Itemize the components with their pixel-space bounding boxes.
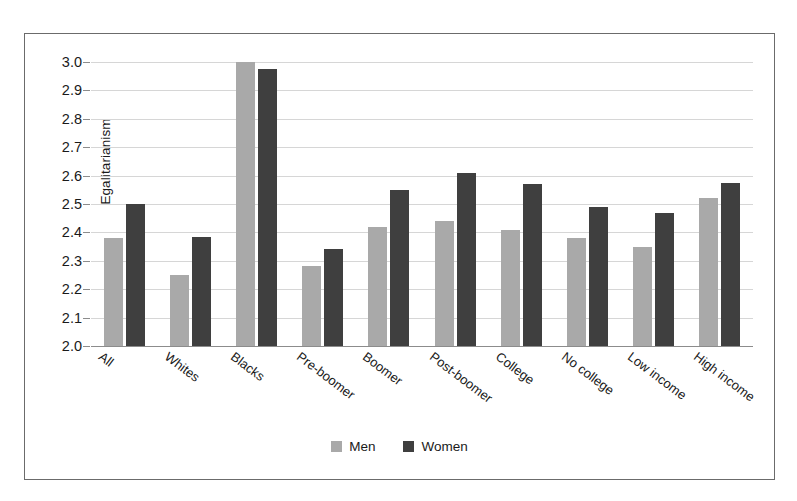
legend-label-women: Women: [421, 439, 467, 454]
bar-men-high-income: [699, 198, 718, 346]
bar-women-boomer: [390, 190, 409, 346]
y-axis-tick-label: 2.2: [62, 281, 82, 297]
y-axis-tick-label: 2.3: [62, 253, 82, 269]
y-axis-tick-mark: [83, 261, 90, 262]
y-axis-tick-mark: [83, 90, 90, 91]
bar-women-whites: [192, 237, 211, 346]
x-axis-tick-label-high-income: High income: [691, 349, 758, 404]
bar-men-pre-boomer: [302, 266, 321, 346]
y-axis-tick-label: 2.9: [62, 82, 82, 98]
legend-swatch-men: [331, 441, 342, 452]
y-axis-tick-label: 3.0: [62, 54, 82, 70]
x-axis-tick-labels: AllWhitesBlacksPre-boomerBoomerPost-boom…: [91, 349, 753, 449]
y-axis-tick-label: 2.7: [62, 139, 82, 155]
x-axis-tick-label-college: College: [493, 349, 537, 388]
chart-figure-frame: Egalitarianism 3.02.92.82.72.62.52.42.32…: [24, 33, 775, 480]
y-axis-tick-mark: [83, 204, 90, 205]
plot-area: 3.02.92.82.72.62.52.42.32.22.12.0: [91, 62, 753, 346]
legend-label-men: Men: [349, 439, 375, 454]
x-axis-tick-label-low-income: Low income: [625, 349, 689, 403]
y-axis-tick-mark: [83, 346, 90, 347]
x-axis-tick-label-blacks: Blacks: [228, 349, 268, 384]
bar-women-high-income: [721, 183, 740, 346]
chart-legend: MenWomen: [25, 439, 774, 454]
bar-women-post-boomer: [457, 173, 476, 346]
bar-men-boomer: [368, 227, 387, 346]
y-axis-tick-label: 2.6: [62, 168, 82, 184]
y-axis-tick-label: 2.0: [62, 338, 82, 354]
y-axis-tick-mark: [83, 62, 90, 63]
y-axis-tick-label: 2.8: [62, 111, 82, 127]
y-axis-tick-label: 2.5: [62, 196, 82, 212]
legend-entry-women: Women: [403, 439, 467, 454]
y-axis-tick-mark: [83, 176, 90, 177]
bar-women-all: [126, 204, 145, 346]
y-axis-tick-mark: [83, 147, 90, 148]
x-axis-tick-label-pre-boomer: Pre-boomer: [294, 349, 358, 402]
legend-entry-men: Men: [331, 439, 375, 454]
bar-men-college: [501, 230, 520, 346]
y-axis-tick-mark: [83, 289, 90, 290]
bar-women-college: [523, 184, 542, 346]
bar-women-no-college: [589, 207, 608, 346]
x-axis-tick-label-boomer: Boomer: [360, 349, 405, 388]
bar-men-whites: [170, 275, 189, 346]
bar-men-blacks: [236, 62, 255, 346]
y-axis-tick-mark: [83, 232, 90, 233]
x-axis-tick-label-all: All: [96, 349, 117, 370]
legend-swatch-women: [403, 441, 414, 452]
y-axis-tick-label: 2.4: [62, 224, 82, 240]
y-axis-tick-label: 2.1: [62, 310, 82, 326]
bar-women-blacks: [258, 69, 277, 346]
bars-layer: [91, 62, 753, 346]
x-axis-baseline: [91, 346, 753, 347]
bar-men-all: [104, 238, 123, 346]
bar-men-no-college: [567, 238, 586, 346]
x-axis-tick-label-no-college: No college: [559, 349, 617, 398]
bar-men-low-income: [633, 247, 652, 346]
x-axis-tick-label-post-boomer: Post-boomer: [427, 349, 495, 406]
bar-men-post-boomer: [435, 221, 454, 346]
y-axis-tick-mark: [83, 318, 90, 319]
bar-women-low-income: [655, 213, 674, 346]
y-axis-tick-mark: [83, 119, 90, 120]
bar-women-pre-boomer: [324, 249, 343, 346]
x-axis-tick-label-whites: Whites: [162, 349, 203, 385]
